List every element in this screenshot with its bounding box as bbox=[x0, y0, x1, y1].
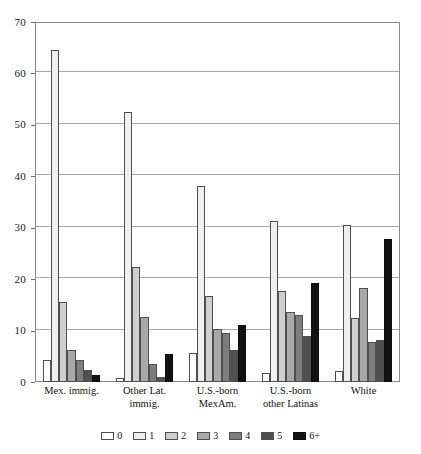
y-tick-label: 30 bbox=[0, 222, 26, 233]
legend-label: 1 bbox=[149, 431, 154, 441]
bar bbox=[222, 333, 230, 382]
legend-label: 5 bbox=[277, 431, 282, 441]
legend-label: 6+ bbox=[309, 431, 320, 441]
y-tick-mark bbox=[31, 382, 35, 383]
y-tick-label: 60 bbox=[0, 68, 26, 79]
legend-item[interactable]: 6+ bbox=[293, 431, 320, 441]
x-axis-label: White bbox=[315, 385, 412, 398]
bar bbox=[67, 350, 75, 382]
legend-item[interactable]: 5 bbox=[261, 431, 282, 441]
legend-swatch-icon bbox=[101, 432, 114, 440]
bar bbox=[238, 325, 246, 382]
bars-layer bbox=[35, 22, 400, 382]
legend-item[interactable]: 1 bbox=[133, 431, 154, 441]
bar bbox=[205, 296, 213, 382]
legend-item[interactable]: 3 bbox=[197, 431, 218, 441]
legend-label: 4 bbox=[245, 431, 250, 441]
bar bbox=[116, 378, 124, 382]
bar bbox=[51, 50, 59, 382]
legend-item[interactable]: 4 bbox=[229, 431, 250, 441]
bar bbox=[149, 364, 157, 382]
y-tick-label: 20 bbox=[0, 274, 26, 285]
y-tick-label: 10 bbox=[0, 325, 26, 336]
bar bbox=[359, 288, 367, 382]
legend-item[interactable]: 0 bbox=[101, 431, 122, 441]
bar bbox=[351, 318, 359, 382]
bar-group bbox=[327, 22, 400, 382]
legend-label: 3 bbox=[213, 431, 218, 441]
bar-chart: 010203040506070 Mex. immig.Other Lat.imm… bbox=[0, 0, 421, 454]
bar-group bbox=[181, 22, 254, 382]
legend: 0123456+ bbox=[0, 428, 421, 444]
bar bbox=[59, 302, 67, 382]
y-tick-label: 40 bbox=[0, 171, 26, 182]
bar bbox=[376, 340, 384, 382]
bar bbox=[368, 342, 376, 382]
bar bbox=[76, 360, 84, 382]
legend-item[interactable]: 2 bbox=[165, 431, 186, 441]
bar bbox=[384, 239, 392, 382]
bar bbox=[262, 373, 270, 382]
x-axis-labels: Mex. immig.Other Lat.immig.U.S.-bornMexA… bbox=[35, 385, 400, 421]
legend-swatch-icon bbox=[229, 432, 242, 440]
bar bbox=[343, 225, 351, 382]
bar bbox=[140, 317, 148, 382]
bar bbox=[311, 283, 319, 382]
bar bbox=[230, 350, 238, 382]
bar bbox=[124, 112, 132, 382]
bar bbox=[303, 336, 311, 382]
legend-swatch-icon bbox=[133, 432, 146, 440]
bar bbox=[213, 329, 221, 382]
bar bbox=[84, 370, 92, 382]
x-axis-label-line: White bbox=[315, 385, 412, 398]
bar bbox=[197, 186, 205, 382]
bar bbox=[189, 353, 197, 382]
bar bbox=[43, 360, 51, 382]
bar bbox=[295, 315, 303, 382]
bar-group bbox=[35, 22, 108, 382]
x-axis-label-line: other Latinas bbox=[242, 398, 339, 411]
legend-label: 0 bbox=[117, 431, 122, 441]
legend-swatch-icon bbox=[197, 432, 210, 440]
bar bbox=[286, 312, 294, 382]
y-tick-label: 50 bbox=[0, 119, 26, 130]
bar bbox=[335, 371, 343, 382]
bar bbox=[270, 221, 278, 382]
bar bbox=[92, 375, 100, 382]
legend-label: 2 bbox=[181, 431, 186, 441]
legend-swatch-icon bbox=[293, 432, 306, 440]
legend-swatch-icon bbox=[165, 432, 178, 440]
y-tick-label: 70 bbox=[0, 17, 26, 28]
bar bbox=[165, 354, 173, 382]
bar-group bbox=[108, 22, 181, 382]
legend-swatch-icon bbox=[261, 432, 274, 440]
bar bbox=[132, 267, 140, 382]
bar bbox=[157, 377, 165, 382]
bar bbox=[278, 291, 286, 382]
bar-group bbox=[254, 22, 327, 382]
